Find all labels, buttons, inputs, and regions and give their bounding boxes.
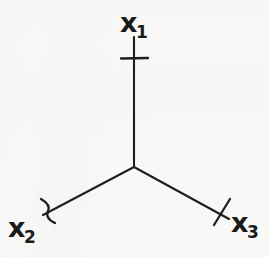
vertex-label-x1-subscript: 1	[136, 22, 147, 42]
leg-line-x2	[43, 167, 134, 215]
diagram-canvas: x1 x2 x3	[0, 0, 269, 257]
vertex-label-x2-base: x	[8, 212, 25, 243]
vertex-label-x3-subscript: 3	[247, 222, 258, 242]
diagram-lines	[0, 0, 269, 257]
vertex-label-x2: x2	[8, 214, 36, 241]
vertex-label-x2-subscript: 2	[24, 227, 35, 247]
vertex-label-x1-base: x	[120, 7, 137, 38]
tick-mark-x1-icon	[121, 58, 148, 59]
vertex-label-x1: x1	[120, 9, 148, 36]
leg-line-x3	[134, 167, 229, 219]
vertex-label-x3-base: x	[231, 207, 248, 238]
tick-mark-x2-icon	[41, 199, 55, 223]
vertex-label-x3: x3	[231, 209, 259, 236]
